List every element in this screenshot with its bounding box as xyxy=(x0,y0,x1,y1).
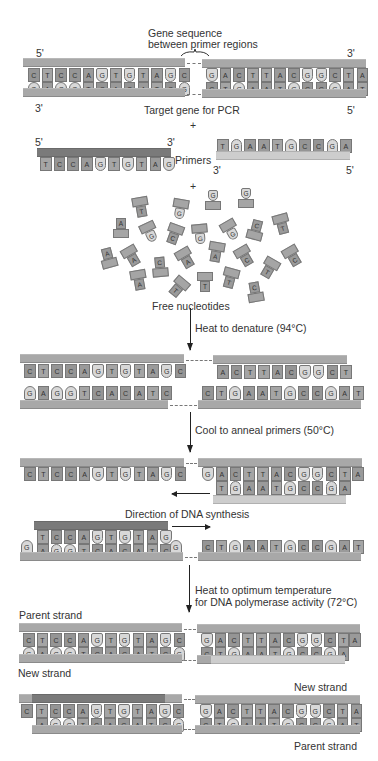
nucleotide-c: C xyxy=(50,704,62,718)
nucleotide-g: G xyxy=(284,481,296,495)
nucleotide-c: C xyxy=(174,633,186,647)
nucleotide-t: T xyxy=(343,68,355,82)
nucleotide-a: A xyxy=(243,481,255,495)
nucleotide-g: G xyxy=(118,704,130,718)
nucleotide-t: T xyxy=(37,530,49,544)
free-nucleotide-c: C xyxy=(151,254,169,277)
free-nucleotide-c: C xyxy=(281,243,306,270)
primer-right-backbone xyxy=(216,151,350,160)
free-nucleotide-t: T xyxy=(197,272,213,294)
nucleotide-a: A xyxy=(106,386,118,400)
strand-backbone xyxy=(202,59,366,68)
free-nucleotide-g: G xyxy=(170,198,190,222)
nucleotide-a: A xyxy=(257,481,269,495)
nucleotide-t: T xyxy=(136,157,148,171)
nucleotide-a: A xyxy=(220,68,232,82)
nucleotide-g: G xyxy=(95,157,107,171)
nucleotide-c: C xyxy=(284,467,296,481)
nucleotide-a: A xyxy=(147,364,159,378)
nucleotide-g: G xyxy=(316,68,328,82)
nucleotide-c: C xyxy=(329,68,341,82)
nucleotide-g: G xyxy=(92,467,104,481)
nucleotide-c: C xyxy=(55,68,67,82)
free-nucleotide-t: T xyxy=(131,196,151,220)
nucleotide-c: C xyxy=(231,365,243,379)
free-nucleotide-a: A xyxy=(129,269,149,293)
dashed-link xyxy=(184,699,195,700)
nucleotide-t: T xyxy=(340,365,352,379)
nucleotide-t: T xyxy=(108,157,120,171)
base-pair: TA xyxy=(243,467,255,495)
nucleotide-t: T xyxy=(106,467,118,481)
nucleotide-c: C xyxy=(228,633,240,647)
strand-backbone xyxy=(197,655,212,664)
nucleotide-c: C xyxy=(233,68,245,82)
strand-backbone xyxy=(165,694,182,703)
nucleotide-g: G xyxy=(312,467,324,481)
plus-sign: + xyxy=(190,180,196,192)
strand-backbone xyxy=(20,400,168,409)
nucleotide-g: G xyxy=(24,386,36,400)
nucleotide-c: C xyxy=(298,386,310,400)
single-strand-bases: A xyxy=(349,633,363,647)
nucleotide-t: T xyxy=(132,704,144,718)
strand-backbone xyxy=(32,725,182,734)
dashed-link xyxy=(184,729,195,730)
base-pair: CG xyxy=(326,467,338,495)
nucleotide-g: G xyxy=(163,157,175,171)
single-strand-bases: GAGGTCACATC xyxy=(24,386,175,400)
nucleotide-c: C xyxy=(175,364,187,378)
strand-backbone xyxy=(20,552,183,561)
three-prime-label: 3' xyxy=(347,47,355,59)
free-nucleotide-t: T xyxy=(165,274,191,301)
brace-icon xyxy=(180,49,210,57)
nucleotide-a: A xyxy=(147,467,159,481)
nucleotide-g: G xyxy=(200,704,212,718)
free-nucleotide-g: G xyxy=(205,188,221,210)
nucleotide-t: T xyxy=(134,467,146,481)
nucleotide-a: A xyxy=(339,386,351,400)
arrow-down-icon xyxy=(189,565,190,612)
nucleotide-a: A xyxy=(272,365,284,379)
base-pair: TA xyxy=(339,467,351,495)
new-strand-backbone xyxy=(211,655,345,664)
five-prime-label: 5' xyxy=(347,104,355,116)
single-strand-bases: C xyxy=(21,704,35,718)
nucleotide-t: T xyxy=(255,704,267,718)
nucleotide-c: C xyxy=(161,386,173,400)
nucleotide-g: G xyxy=(120,467,132,481)
nucleotide-a: A xyxy=(257,386,269,400)
nucleotide-c: C xyxy=(64,633,76,647)
nucleotide-c: C xyxy=(298,481,310,495)
nucleotide-a: A xyxy=(217,365,229,379)
nucleotide-a: A xyxy=(349,633,361,647)
nucleotide-c: C xyxy=(175,467,187,481)
nucleotide-g: G xyxy=(161,364,173,378)
single-strand-bases: CTCCAGTGTAGC xyxy=(24,364,188,378)
dashed-link xyxy=(187,94,201,95)
nucleotide-t: T xyxy=(133,633,145,647)
new-strand-label: New strand xyxy=(18,667,71,679)
free-nucleotide-c: C xyxy=(245,279,265,303)
primers-label: Primers xyxy=(175,154,211,166)
three-prime-label: 3' xyxy=(35,102,43,114)
nucleotide-g: G xyxy=(120,364,132,378)
nucleotide-c: C xyxy=(173,704,185,718)
single-strand-bases: G xyxy=(202,467,216,481)
nucleotide-c: C xyxy=(324,633,336,647)
nucleotide-t: T xyxy=(138,68,150,82)
strand-backbone xyxy=(198,552,361,561)
nucleotide-g: G xyxy=(201,633,213,647)
strand-backbone xyxy=(20,354,184,363)
nucleotide-a: A xyxy=(78,633,90,647)
strand-backbone xyxy=(23,88,185,97)
nucleotide-a: A xyxy=(268,704,280,718)
nucleotide-c: C xyxy=(202,386,214,400)
nucleotide-a: A xyxy=(146,704,158,718)
strand-backbone xyxy=(198,400,361,409)
nucleotide-t: T xyxy=(216,386,228,400)
free-nucleotide-a: A xyxy=(120,243,145,270)
nucleotide-a: A xyxy=(215,633,227,647)
nucleotide-g: G xyxy=(119,530,131,544)
dashed-link xyxy=(186,360,212,361)
